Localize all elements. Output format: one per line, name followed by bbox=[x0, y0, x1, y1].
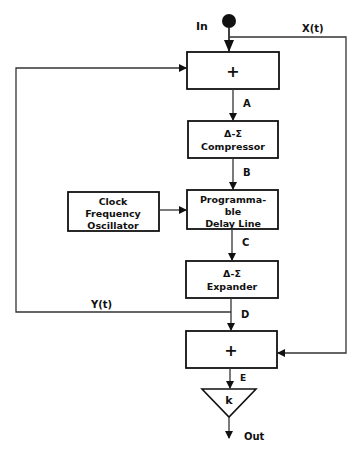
clock-label-line2: Frequency bbox=[85, 208, 141, 219]
gain-symbol: k bbox=[225, 394, 233, 407]
delay-label-line2: ble bbox=[225, 206, 242, 217]
compressor-block: Δ-Σ Compressor bbox=[188, 121, 278, 158]
feedforward-label: X(t) bbox=[302, 23, 324, 34]
signal-label-c: C bbox=[242, 237, 249, 248]
sum-block-2: + bbox=[186, 331, 277, 368]
delay-label-line1: Programma- bbox=[200, 194, 266, 205]
signal-label-e: E bbox=[240, 373, 246, 383]
output-label: Out bbox=[244, 431, 265, 442]
expander-label: Expander bbox=[207, 281, 258, 292]
compressor-label: Compressor bbox=[201, 141, 265, 152]
sum-symbol: + bbox=[226, 62, 239, 81]
delay-line-block: Programma- ble Delay Line bbox=[187, 190, 278, 229]
gain-block: k bbox=[202, 389, 256, 417]
signal-label-b: B bbox=[243, 167, 251, 178]
delay-label-line3: Delay Line bbox=[205, 218, 261, 229]
expander-title: Δ-Σ bbox=[223, 268, 241, 279]
feedback-label: Y(t) bbox=[90, 299, 112, 310]
sum-symbol: + bbox=[224, 341, 237, 360]
clock-label-line1: Clock bbox=[99, 196, 128, 207]
signal-label-a: A bbox=[243, 98, 251, 109]
sum-block-1: + bbox=[187, 52, 279, 89]
input-label: In bbox=[196, 20, 208, 33]
expander-block: Δ-Σ Expander bbox=[186, 261, 278, 298]
input-node-icon bbox=[222, 14, 236, 28]
signal-label-d: D bbox=[241, 309, 249, 320]
block-diagram: In X(t) + A Δ-Σ Compressor B Clock Frequ… bbox=[0, 0, 360, 455]
clock-oscillator-block: Clock Frequency Oscillator bbox=[68, 192, 159, 231]
compressor-title: Δ-Σ bbox=[224, 128, 242, 139]
clock-label-line3: Oscillator bbox=[87, 220, 139, 231]
